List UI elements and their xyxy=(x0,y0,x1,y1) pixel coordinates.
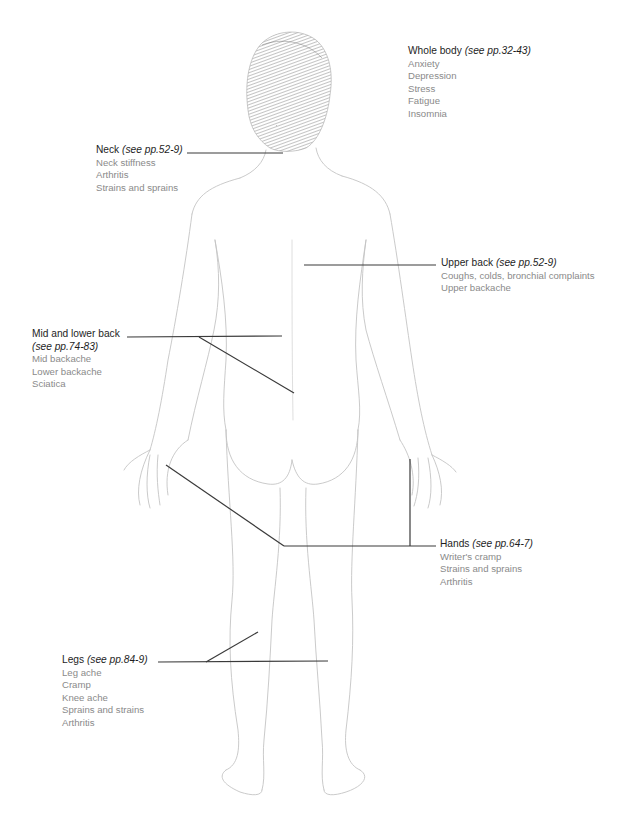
symptom-item: Neck stiffness xyxy=(96,157,183,170)
symptom-item: Sciatica xyxy=(32,378,120,391)
symptom-item: Leg ache xyxy=(62,667,148,680)
page-ref: (see pp.52-9) xyxy=(496,257,557,268)
symptom-item: Arthritis xyxy=(62,717,148,730)
label-mid-lower-back: Mid and lower back (see pp.74-83) Mid ba… xyxy=(32,328,120,391)
label-hands: Hands (see pp.64-7) Writer's cramp Strai… xyxy=(440,538,533,588)
symptom-item: Cramp xyxy=(62,679,148,692)
symptom-item: Upper backache xyxy=(441,282,595,295)
leader-mid-back-horizontal xyxy=(127,336,282,337)
region-title: Legs (see pp.84-9) xyxy=(62,654,148,667)
leader-hands-diagonal xyxy=(166,465,284,546)
symptom-item: Arthritis xyxy=(440,576,533,589)
region-title: Neck (see pp.52-9) xyxy=(96,144,183,157)
symptom-item: Knee ache xyxy=(62,692,148,705)
symptom-item: Sprains and strains xyxy=(62,704,148,717)
symptom-item: Strains and sprains xyxy=(96,182,183,195)
page-ref: (see pp.84-9) xyxy=(87,654,148,665)
symptom-item: Mid backache xyxy=(32,353,120,366)
region-title: Whole body (see pp.32-43) xyxy=(408,45,531,58)
page-ref: (see pp.32-43) xyxy=(465,45,531,56)
symptom-item: Strains and sprains xyxy=(440,563,533,576)
symptom-item: Insomnia xyxy=(408,108,531,121)
label-whole-body: Whole body (see pp.32-43) Anxiety Depres… xyxy=(408,45,531,121)
label-upper-back: Upper back (see pp.52-9) Coughs, colds, … xyxy=(441,257,595,295)
label-neck: Neck (see pp.52-9) Neck stiffness Arthri… xyxy=(96,144,183,194)
page-ref: (see pp.52-9) xyxy=(122,144,183,155)
symptom-item: Stress xyxy=(408,83,531,96)
symptom-item: Anxiety xyxy=(408,58,531,71)
body-outline-sketch xyxy=(124,148,456,795)
head-sketch xyxy=(247,32,331,151)
leader-legs-diagonal xyxy=(206,632,258,662)
region-title: Mid and lower back xyxy=(32,328,120,341)
page-ref: (see pp.74-83) xyxy=(32,341,120,354)
region-title: Hands (see pp.64-7) xyxy=(440,538,533,551)
symptom-item: Arthritis xyxy=(96,169,183,182)
label-legs: Legs (see pp.84-9) Leg ache Cramp Knee a… xyxy=(62,654,148,730)
symptom-item: Fatigue xyxy=(408,95,531,108)
region-title: Upper back (see pp.52-9) xyxy=(441,257,595,270)
symptom-item: Depression xyxy=(408,70,531,83)
page-ref: (see pp.64-7) xyxy=(472,538,533,549)
leader-mid-back-diagonal xyxy=(199,337,294,393)
leader-legs-horizontal xyxy=(158,661,328,662)
symptom-item: Writer's cramp xyxy=(440,551,533,564)
symptom-item: Lower backache xyxy=(32,366,120,379)
symptom-item: Coughs, colds, bronchial complaints xyxy=(441,270,595,283)
